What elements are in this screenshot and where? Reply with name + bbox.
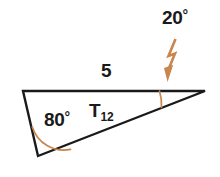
top-side-length-label: 5 bbox=[101, 61, 112, 80]
triangle-name-base: T bbox=[89, 100, 101, 121]
base-angle-value: 80 bbox=[44, 109, 65, 130]
degree-symbol-icon: ° bbox=[183, 7, 188, 23]
triangle-name-label: T12 bbox=[89, 101, 114, 120]
base-angle-label: 80° bbox=[44, 110, 70, 129]
degree-symbol-icon: ° bbox=[65, 109, 70, 125]
angle-arc-icon-right bbox=[160, 91, 162, 108]
zigzag-arrow-icon bbox=[164, 39, 176, 82]
geometry-figure: 20° 5 T12 80° bbox=[0, 0, 220, 177]
callout-angle-value: 20 bbox=[162, 7, 183, 28]
callout-angle-label: 20° bbox=[162, 8, 188, 27]
triangle-name-subscript: 12 bbox=[101, 110, 114, 124]
